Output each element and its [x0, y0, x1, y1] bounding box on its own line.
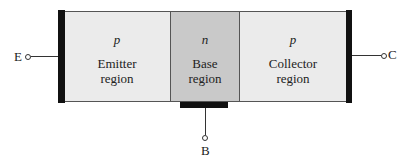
collector-region: p Collector region	[240, 11, 346, 102]
collector-lead	[352, 55, 381, 56]
base-terminal-label: B	[201, 143, 210, 159]
base-contact	[180, 102, 228, 108]
collector-terminal-icon	[381, 53, 387, 59]
emitter-region: p Emitter region	[64, 11, 170, 102]
collector-terminal-label: C	[388, 47, 397, 63]
collector-contact	[346, 10, 352, 103]
base-terminal-icon	[202, 135, 208, 141]
emitter-contact	[58, 10, 65, 103]
collector-region-label: Collector region	[240, 56, 346, 86]
emitter-region-label: Emitter region	[64, 56, 170, 86]
base-region: n Base region	[170, 11, 240, 102]
base-doping-label: n	[171, 32, 239, 48]
emitter-terminal-icon	[25, 54, 31, 60]
base-lead	[205, 108, 206, 135]
collector-doping-label: p	[240, 32, 346, 48]
emitter-doping-label: p	[64, 32, 170, 48]
emitter-terminal-label: E	[14, 49, 22, 65]
emitter-lead	[31, 56, 58, 57]
base-region-label: Base region	[171, 56, 239, 86]
